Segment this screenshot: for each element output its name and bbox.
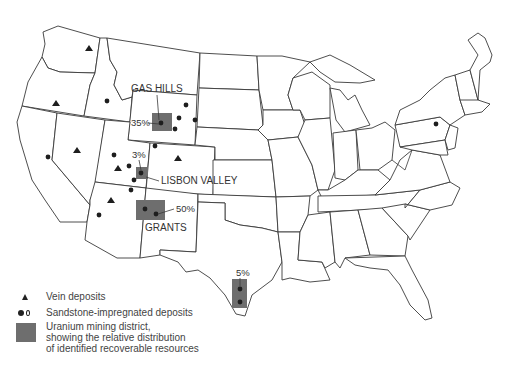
texas-percent: 5%	[236, 267, 250, 278]
lisbon-valley-percent: 3%	[132, 149, 146, 160]
grants-district	[136, 200, 165, 220]
gray-box-icon	[16, 323, 36, 342]
lisbon-valley-label: LISBON VALLEY	[161, 175, 238, 186]
dot-icon	[18, 310, 24, 316]
legend-label: Vein deposits	[46, 291, 106, 302]
state-boundaries	[17, 26, 492, 320]
grants-percent: 50%	[176, 203, 196, 214]
legend-item-sandstone: Sandstone-impregnated deposits	[14, 306, 314, 321]
legend-label: Sandstone-impregnated deposits	[46, 307, 193, 318]
legend-label: Uranium mining district, showing the rel…	[46, 321, 199, 354]
open-dot-icon	[26, 310, 30, 316]
triangle-icon	[22, 294, 28, 300]
gas-hills-percent: 35%	[131, 117, 151, 128]
gas-hills-label: GAS HILLS	[131, 83, 183, 94]
legend-item-district: Uranium mining district, showing the rel…	[14, 321, 314, 357]
legend: Vein deposits Sandstone-impregnated depo…	[14, 290, 314, 357]
legend-item-vein: Vein deposits	[14, 290, 314, 306]
grants-label: GRANTS	[145, 222, 187, 233]
